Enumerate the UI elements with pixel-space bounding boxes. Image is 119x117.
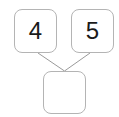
number-box-addend-1[interactable]: 4	[14, 9, 57, 53]
connector-line-left	[38, 53, 65, 71]
number-bond-diagram: 4 5	[0, 0, 119, 117]
number-box-addend-1-value: 4	[29, 19, 42, 43]
number-box-addend-2[interactable]: 5	[71, 9, 114, 53]
number-box-sum-empty[interactable]	[43, 71, 86, 114]
connector-line-right	[65, 53, 91, 71]
number-box-addend-2-value: 5	[86, 19, 99, 43]
